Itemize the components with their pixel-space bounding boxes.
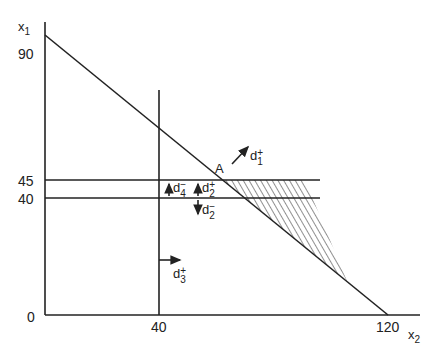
label-d2-plus: d+2 [202,180,215,198]
y-tick-45: 45 [18,174,34,188]
x-tick-40: 40 [151,320,167,334]
label-d4-minus: d−4 [173,180,186,198]
goal-programming-diagram: x1 x2 90 45 40 0 40 120 A d+1 d+2 d−2 d−… [0,0,446,361]
y-axis-label: x1 [18,20,30,37]
origin-label: 0 [27,310,35,324]
label-d3-plus: d+3 [173,266,186,284]
diagram-canvas [0,0,446,361]
arrow-d1-plus [232,147,248,164]
x-axis-label: x2 [408,328,420,345]
y-tick-40: 40 [18,192,34,206]
label-d1-plus: d+1 [250,148,263,166]
x-tick-120: 120 [376,320,399,334]
label-d2-minus: d−2 [202,202,215,220]
y-tick-90: 90 [18,47,34,61]
point-a-label: A [215,162,224,175]
